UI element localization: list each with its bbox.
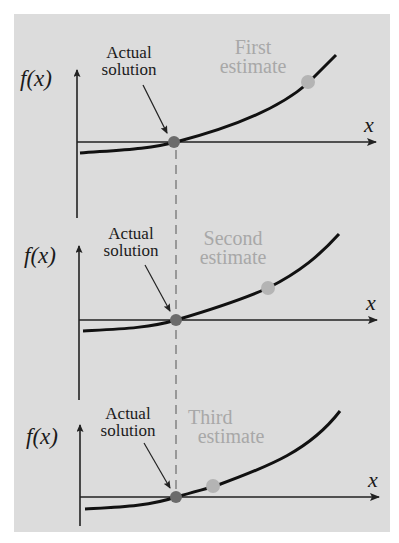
- actual-label-line1: Actual: [96, 225, 166, 242]
- actual-label-line1: Actual: [94, 44, 164, 61]
- estimate-label-line2: estimate: [186, 248, 280, 267]
- estimate-dot: [206, 479, 220, 493]
- actual-solution-label: Actual solution: [94, 44, 164, 78]
- estimate-label: Third estimate: [184, 408, 278, 446]
- actual-solution-dot: [170, 314, 182, 326]
- diagram-figure: [0, 0, 399, 543]
- y-axis-label: f(x): [26, 424, 58, 450]
- y-axis-label: f(x): [24, 243, 56, 269]
- actual-solution-dot: [168, 136, 180, 148]
- actual-label-line2: solution: [93, 422, 163, 439]
- estimate-label-line2: estimate: [206, 57, 300, 76]
- estimate-dot: [261, 281, 275, 295]
- estimate-label: Second estimate: [186, 229, 280, 267]
- actual-solution-label: Actual solution: [96, 225, 166, 259]
- estimate-label-line2: estimate: [184, 427, 278, 446]
- actual-label-line1: Actual: [93, 405, 163, 422]
- pointer-arrow: [143, 85, 167, 133]
- pointer-arrow: [145, 265, 170, 311]
- estimate-label: First estimate: [206, 38, 300, 76]
- estimate-dot: [301, 75, 315, 89]
- x-axis-label: x: [364, 112, 374, 138]
- actual-label-line2: solution: [94, 61, 164, 78]
- panel-first-estimate: [77, 55, 376, 218]
- x-axis-label: x: [368, 467, 378, 493]
- actual-label-line2: solution: [96, 242, 166, 259]
- actual-solution-dot: [170, 491, 182, 503]
- pointer-arrow: [144, 443, 170, 488]
- x-axis-label: x: [366, 290, 376, 316]
- y-axis-label: f(x): [20, 66, 52, 92]
- actual-solution-label: Actual solution: [93, 405, 163, 439]
